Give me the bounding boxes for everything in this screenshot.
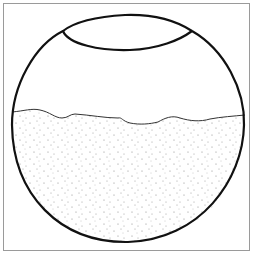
bowl-drawing <box>0 0 255 257</box>
bowl-contents <box>0 100 255 257</box>
bowl-opening-rim <box>63 31 192 50</box>
